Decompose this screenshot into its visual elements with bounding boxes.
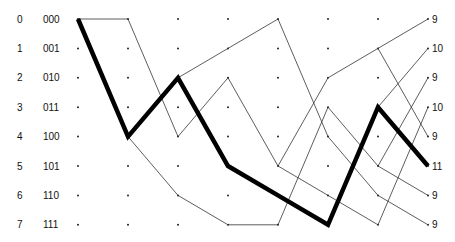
trellis-node	[277, 47, 279, 49]
state-binary-label: 001	[43, 43, 60, 54]
trellis-node	[127, 165, 129, 167]
branch-line	[328, 48, 378, 77]
branch-line	[178, 195, 228, 224]
trellis-node	[177, 224, 179, 226]
branch-line	[378, 107, 428, 225]
trellis-node	[327, 18, 329, 20]
final-metric-label: 9	[432, 72, 438, 83]
trellis-node	[77, 47, 79, 49]
trellis-node	[377, 18, 379, 20]
branch-line	[278, 107, 328, 225]
trellis-node	[177, 165, 179, 167]
final-metric-label: 9	[432, 190, 438, 201]
trellis-node	[177, 47, 179, 49]
state-index-label: 6	[17, 190, 23, 201]
trellis-node	[177, 18, 179, 20]
final-metric-label: 9	[432, 131, 438, 142]
branch-line	[328, 107, 378, 166]
final-metric-label: 11	[432, 161, 443, 172]
state-binary-label: 101	[43, 161, 60, 172]
final-metric-label: 10	[432, 43, 444, 54]
trellis-node	[77, 165, 79, 167]
trellis-node	[227, 194, 229, 196]
branch-line	[178, 48, 228, 77]
path-metrics: 91091091199	[432, 14, 444, 231]
state-index-label: 3	[17, 102, 23, 113]
trellis-node	[127, 47, 129, 49]
branch-line	[378, 166, 428, 195]
trellis-node	[77, 194, 79, 196]
branch-line	[378, 48, 428, 107]
trellis-node	[377, 77, 379, 79]
trellis-diagram: 00001001201030114100510161107111 9109109…	[0, 0, 455, 242]
trellis-node	[277, 106, 279, 108]
final-metric-label: 9	[432, 14, 438, 25]
state-index-label: 5	[17, 161, 23, 172]
trellis-node	[227, 18, 229, 20]
trellis-node	[227, 106, 229, 108]
trellis-node	[277, 77, 279, 79]
branch-line	[378, 19, 428, 48]
trellis-node	[227, 136, 229, 138]
trellis-node	[377, 136, 379, 138]
trellis-node	[77, 136, 79, 138]
state-index-label: 4	[17, 131, 23, 142]
trellis-node	[127, 106, 129, 108]
branch-line	[378, 195, 428, 224]
state-binary-label: 110	[43, 190, 59, 201]
trellis-node	[77, 77, 79, 79]
final-metric-label: 9	[432, 219, 438, 230]
state-binary-label: 011	[43, 102, 59, 113]
state-labels: 00001001201030114100510161107111	[17, 14, 60, 231]
branch-line	[278, 78, 328, 166]
state-index-label: 7	[17, 219, 23, 230]
final-metric-label: 10	[432, 102, 444, 113]
branch-line	[228, 19, 278, 48]
state-binary-label: 100	[43, 131, 60, 142]
trellis-node	[327, 165, 329, 167]
trellis-node	[277, 136, 279, 138]
branch-line	[378, 48, 428, 136]
state-index-label: 2	[17, 72, 23, 83]
branch-line	[128, 137, 178, 196]
trellis-node	[77, 224, 79, 226]
state-index-label: 0	[17, 14, 23, 25]
branch-line	[128, 19, 178, 137]
trellis-node	[177, 106, 179, 108]
trellis-node	[77, 106, 79, 108]
branch-line	[278, 166, 328, 195]
state-binary-label: 010	[43, 72, 60, 83]
trellis-branches	[78, 19, 428, 225]
state-index-label: 1	[17, 43, 23, 54]
trellis-node	[127, 194, 129, 196]
trellis-node	[327, 47, 329, 49]
trellis-node	[127, 224, 129, 226]
trellis-node	[127, 77, 129, 79]
state-binary-label: 000	[43, 14, 60, 25]
state-binary-label: 111	[43, 219, 59, 230]
branch-line	[378, 78, 428, 166]
branch-line	[278, 19, 328, 137]
branch-line	[228, 78, 278, 166]
